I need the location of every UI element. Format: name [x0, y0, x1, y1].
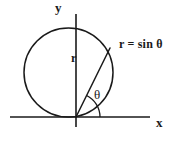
- angle-theta-label: θ: [94, 88, 100, 101]
- polar-curve-circle: [24, 28, 113, 117]
- radius-label: r: [71, 52, 76, 64]
- y-axis-label: y: [55, 1, 62, 14]
- x-axis-label: x: [156, 116, 163, 129]
- radius-vector-line: [76, 48, 110, 117]
- figure-canvas: [0, 0, 178, 147]
- curve-equation-label: r = sin θ: [119, 38, 163, 50]
- polar-curve-figure: y x r θ r = sin θ: [0, 0, 178, 147]
